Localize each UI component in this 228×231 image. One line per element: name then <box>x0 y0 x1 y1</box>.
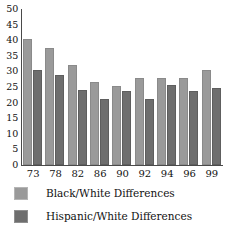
bar-group <box>157 9 179 165</box>
legend-item-label: Black/White Differences <box>46 186 175 200</box>
y-axis-tick-label: 35 <box>0 51 18 61</box>
bar-group <box>90 9 112 165</box>
bar-92-s1 <box>145 99 154 165</box>
bars-area <box>22 9 223 165</box>
x-axis-line <box>21 165 223 166</box>
bar-99-s0 <box>202 70 211 165</box>
bar-86-s1 <box>100 99 109 165</box>
plot-area: 50454035302520151050 737882869092949699 <box>0 0 228 168</box>
y-axis-tick-label: 50 <box>0 4 18 14</box>
x-axis-tick-label: 82 <box>67 168 89 180</box>
legend-swatch-icon <box>14 210 28 223</box>
y-axis-tick-label: 20 <box>0 98 18 108</box>
bar-78-s0 <box>45 48 54 165</box>
bar-group <box>179 9 201 165</box>
x-axis-tick-label: 92 <box>134 168 156 180</box>
bar-90-s0 <box>112 86 121 165</box>
y-axis-tick-label: 45 <box>0 20 18 30</box>
bar-78-s1 <box>55 75 64 165</box>
y-axis-tick-label: 30 <box>0 66 18 76</box>
y-axis-tick-label: 5 <box>0 144 18 154</box>
bar-99-s1 <box>212 88 221 165</box>
x-axis-tick-label: 90 <box>112 168 134 180</box>
x-axis-tick-label: 86 <box>89 168 111 180</box>
x-axis-tick-label: 94 <box>156 168 178 180</box>
bar-73-s0 <box>23 39 32 165</box>
x-axis: 737882869092949699 <box>22 168 223 182</box>
bar-group <box>202 9 224 165</box>
bar-group <box>23 9 45 165</box>
y-axis-tick-label: 0 <box>0 160 18 170</box>
bar-73-s1 <box>33 70 42 165</box>
bar-92-s0 <box>135 78 144 165</box>
legend-item-label: Hispanic/White Differences <box>46 209 192 223</box>
y-axis-tick-label: 25 <box>0 82 18 92</box>
bar-96-s0 <box>179 78 188 165</box>
y-axis-tick-label: 15 <box>0 113 18 123</box>
x-axis-tick-label: 96 <box>179 168 201 180</box>
bar-90-s1 <box>122 91 131 165</box>
bar-82-s0 <box>68 65 77 165</box>
bar-94-s0 <box>157 78 166 165</box>
bar-group <box>135 9 157 165</box>
x-axis-tick-label: 99 <box>201 168 223 180</box>
y-axis: 50454035302520151050 <box>0 0 18 168</box>
bar-82-s1 <box>78 90 87 165</box>
x-axis-tick-label: 78 <box>45 168 67 180</box>
bar-94-s1 <box>167 85 176 165</box>
bar-group <box>112 9 134 165</box>
legend-swatch-icon <box>14 187 28 200</box>
bar-group <box>45 9 67 165</box>
bar-chart: 50454035302520151050 737882869092949699 … <box>0 0 228 231</box>
y-axis-tick-label: 10 <box>0 129 18 139</box>
y-axis-tick-label: 40 <box>0 35 18 45</box>
bar-group <box>68 9 90 165</box>
bar-86-s0 <box>90 82 99 165</box>
chart-legend: Black/White Differences Hispanic/White D… <box>0 186 228 231</box>
bar-96-s1 <box>189 91 198 165</box>
x-axis-tick-label: 73 <box>22 168 44 180</box>
